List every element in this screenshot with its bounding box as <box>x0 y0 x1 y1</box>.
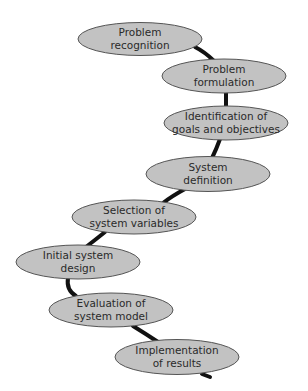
node-label-line2: design <box>61 262 96 274</box>
node-label-line1: System <box>188 161 227 173</box>
process-diagram: Problem recognition Problem formulation … <box>0 0 308 391</box>
node-label-line2: goals and objectives <box>172 123 280 135</box>
connector-6-7 <box>68 278 76 296</box>
node-label-line2: recognition <box>110 39 169 51</box>
node-label-line1: Selection of <box>103 204 165 216</box>
node-label-line1: Problem <box>203 63 246 75</box>
node-problem-formulation: Problem formulation <box>162 59 286 93</box>
connector-tail <box>202 374 210 377</box>
node-problem-recognition: Problem recognition <box>78 23 202 56</box>
connector-7-8 <box>133 326 158 342</box>
node-label-line1: Implementation <box>135 344 218 356</box>
node-label-line2: of results <box>153 357 202 369</box>
node-label-line1: Problem <box>119 26 162 38</box>
node-label-line2: definition <box>183 174 232 186</box>
node-evaluation-of-model: Evaluation of system model <box>49 293 173 327</box>
node-identification-of-goals: Identification of goals and objectives <box>164 106 288 140</box>
connector-4-5 <box>163 189 185 203</box>
node-implementation-of-results: Implementation of results <box>115 340 239 375</box>
node-label-line2: system model <box>74 310 148 322</box>
node-system-definition: System definition <box>146 157 270 192</box>
node-selection-of-variables: Selection of system variables <box>72 200 196 234</box>
node-label-line2: formulation <box>194 76 255 88</box>
node-label-line1: Initial system <box>43 249 113 261</box>
node-label-line1: Evaluation of <box>77 297 146 309</box>
node-label-line2: system variables <box>89 217 178 229</box>
node-initial-system-design: Initial system design <box>16 245 140 279</box>
node-label-line1: Identification of <box>185 110 268 122</box>
connector-3-4 <box>212 139 220 158</box>
